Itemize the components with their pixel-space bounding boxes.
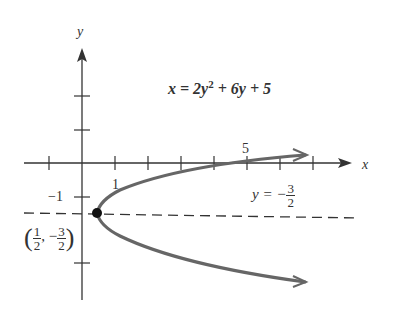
chart: y x x = 2y2 + 6y + 5 1 5 −1 y = −32 (12,… [0,0,394,312]
equation-label: x = 2y2 + 6y + 5 [168,78,271,98]
axis-of-symmetry [24,213,360,218]
vertex-point [92,208,102,218]
plot-area [0,0,394,312]
x-axis-label: x [362,157,368,173]
parabola-curve [97,155,305,282]
tick-label-y-neg1: −1 [48,189,63,205]
symmetry-label: y = −32 [252,182,295,209]
tick-label-x-1: 1 [112,177,119,193]
vertex-label: (12, −32) [24,223,74,253]
y-axis-label: y [77,24,83,40]
tick-label-x-5: 5 [242,141,249,157]
